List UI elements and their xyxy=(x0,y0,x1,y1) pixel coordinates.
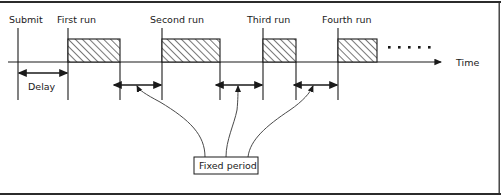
third-run-label: Third run xyxy=(246,14,290,25)
time-axis-label: Time xyxy=(455,57,479,68)
fixed-period-label: Fixed period xyxy=(199,160,257,171)
delay-label: Delay xyxy=(28,81,56,92)
first-run-label: First run xyxy=(57,14,96,25)
ellipsis-dot xyxy=(388,46,391,49)
ellipsis-dot xyxy=(398,46,401,49)
timing-diagram-canvas: Time Submit First run Second run Third r… xyxy=(0,0,501,196)
second-run-label: Second run xyxy=(150,14,204,25)
ellipsis-dot xyxy=(408,46,411,49)
fourth-run-label: Fourth run xyxy=(322,14,372,25)
ellipsis-dot xyxy=(418,46,421,49)
ellipsis-dot xyxy=(428,46,431,49)
run-block-second xyxy=(162,39,220,62)
timing-diagram-figure: Time Submit First run Second run Third r… xyxy=(0,0,501,196)
run-block-third xyxy=(263,39,296,62)
run-block-fourth xyxy=(338,39,377,62)
run-block-first xyxy=(68,39,120,62)
submit-label: Submit xyxy=(9,14,43,25)
